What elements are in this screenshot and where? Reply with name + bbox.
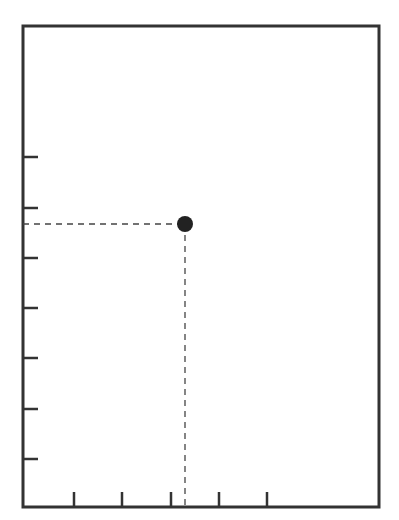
guide-lines [23, 224, 185, 507]
y-axis-ticks [23, 157, 38, 459]
scatter-chart [0, 0, 399, 520]
x-axis-ticks [74, 492, 267, 507]
data-point [177, 216, 193, 232]
plot-frame [23, 26, 379, 507]
data-points [177, 216, 193, 232]
